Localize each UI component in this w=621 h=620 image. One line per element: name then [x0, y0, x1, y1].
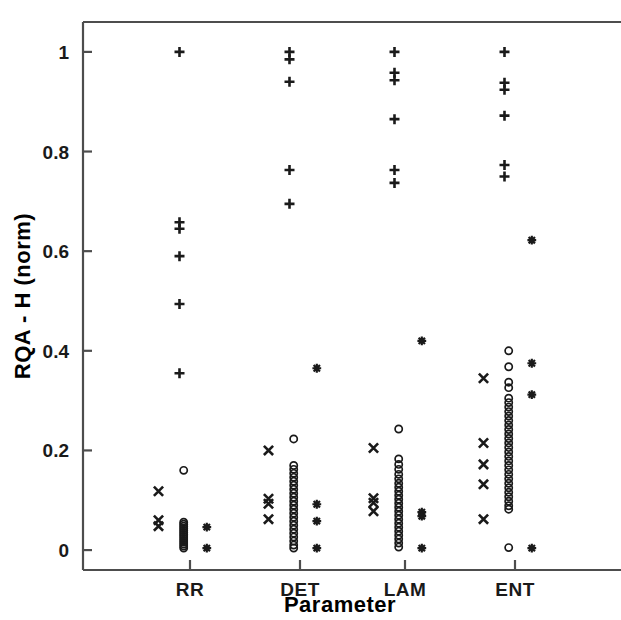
data-point-marker [417, 336, 426, 345]
data-point-marker [417, 512, 426, 521]
data-point-marker [527, 236, 536, 245]
y-axis-title: RQA - H (norm) [10, 213, 35, 379]
data-point-marker [202, 544, 211, 553]
data-point-marker [312, 517, 321, 526]
data-point-marker [312, 544, 321, 553]
y-tick-label: 0.4 [43, 341, 70, 362]
data-point-marker [312, 364, 321, 373]
x-axis-title: Parameter [284, 592, 396, 617]
y-tick-label: 0 [58, 540, 69, 561]
data-point-marker [527, 390, 536, 399]
x-category-label-ent: ENT [495, 579, 535, 600]
data-point-marker [527, 544, 536, 553]
plot-canvas: 00.20.40.60.81 RRDETLAMENT Parameter RQA… [0, 0, 621, 620]
y-tick-label: 0.8 [43, 142, 69, 163]
data-point-marker [417, 544, 426, 553]
y-tick-label: 0.2 [43, 440, 69, 461]
figure-background [0, 0, 621, 620]
x-category-label-rr: RR [176, 579, 204, 600]
data-point-marker [202, 523, 211, 532]
data-point-marker [527, 359, 536, 368]
y-tick-label: 1 [58, 42, 69, 63]
scatter-plot-figure: 00.20.40.60.81 RRDETLAMENT Parameter RQA… [0, 0, 621, 620]
y-tick-label: 0.6 [43, 241, 69, 262]
data-point-marker [312, 500, 321, 509]
